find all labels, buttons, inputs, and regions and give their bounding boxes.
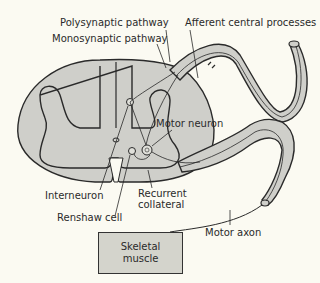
- dorsal-root-cut-end: [289, 41, 299, 47]
- label-interneuron: Interneuron: [45, 190, 103, 201]
- muscle-label-line1: Skeletal: [121, 241, 161, 253]
- label-monosynaptic-pathway: Monosynaptic pathway: [52, 33, 167, 44]
- skeletal-muscle-box: Skeletal muscle: [98, 232, 183, 274]
- label-renshaw-cell: Renshaw cell: [57, 212, 122, 223]
- renshaw-cell: [129, 148, 136, 155]
- label-recurrent: Recurrent: [138, 188, 187, 199]
- label-motor-axon: Motor axon: [205, 227, 261, 238]
- afferent-synapse-marks: [208, 62, 215, 68]
- motor-neuron-cell: [142, 145, 152, 155]
- muscle-label-line2: muscle: [123, 253, 159, 265]
- label-motor-neuron: Motor neuron: [156, 118, 223, 129]
- ventral-root-cut-end: [261, 200, 269, 206]
- label-afferent-central-processes: Afferent central processes: [185, 17, 316, 28]
- label-polysynaptic-pathway: Polysynaptic pathway: [60, 17, 169, 28]
- label-collateral: collateral: [138, 199, 184, 210]
